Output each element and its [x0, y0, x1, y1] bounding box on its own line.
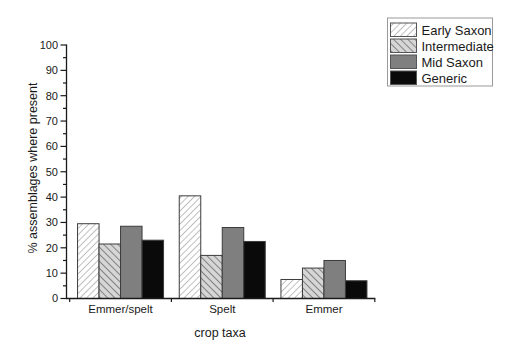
bars-group [78, 196, 367, 299]
y-tick-label-60: 60 [46, 140, 58, 152]
legend-swatch-mid-saxon [391, 55, 417, 69]
y-tick-label-100: 100 [40, 39, 58, 51]
y-tick-label-40: 40 [46, 191, 58, 203]
legend-label-generic: Generic [422, 71, 468, 86]
bar-chart-figure: 0102030405060708090100 % assemblages whe… [0, 0, 518, 362]
legend-swatch-early-saxon [391, 23, 417, 37]
y-tick-label-0: 0 [52, 292, 58, 304]
legend-swatch-generic [391, 71, 417, 85]
bar-emmer-early-saxon [281, 279, 303, 298]
legend-label-early-saxon: Early Saxon [422, 23, 492, 38]
legend: Early Saxon Intermediate Mid Saxon Gener… [388, 18, 494, 86]
y-axis-ticks: 0102030405060708090100 [40, 39, 67, 305]
y-tick-label-90: 90 [46, 64, 58, 76]
category-label-emmer: Emmer [305, 303, 342, 315]
bar-emmer-generic [345, 281, 367, 299]
y-tick-label-50: 50 [46, 166, 58, 178]
y-tick-label-20: 20 [46, 242, 58, 254]
y-tick-label-70: 70 [46, 115, 58, 127]
y-tick-label-10: 10 [46, 267, 58, 279]
bar-emmer-mid-saxon [324, 260, 346, 298]
chart-canvas: 0102030405060708090100 % assemblages whe… [0, 0, 518, 362]
bar-emmer-spelt-generic [142, 240, 164, 298]
bar-spelt-early-saxon [179, 196, 201, 299]
bar-emmer-spelt-intermediate [99, 244, 121, 299]
y-tick-label-30: 30 [46, 216, 58, 228]
legend-label-mid-saxon: Mid Saxon [422, 55, 483, 70]
legend-label-intermediate: Intermediate [422, 39, 494, 54]
y-tick-label-80: 80 [46, 90, 58, 102]
category-label-emmer-spelt: Emmer/spelt [88, 303, 153, 315]
bar-spelt-generic [244, 241, 266, 298]
bar-spelt-mid-saxon [222, 228, 244, 299]
y-axis-title: % assemblages where present [26, 82, 40, 253]
x-axis-title: crop taxa [194, 326, 245, 340]
category-label-spelt: Spelt [209, 303, 236, 315]
bar-emmer-spelt-mid-saxon [121, 226, 143, 298]
legend-swatch-intermediate [391, 39, 417, 53]
bar-emmer-intermediate [302, 268, 324, 298]
bar-spelt-intermediate [201, 255, 223, 298]
bar-emmer-spelt-early-saxon [78, 224, 100, 299]
